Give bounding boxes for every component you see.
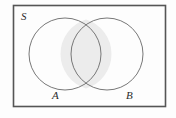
universal-set-label: S [21, 10, 27, 22]
set-b-label: B [126, 89, 133, 101]
venn-diagram-figure: S A B [0, 0, 176, 118]
venn-diagram-canvas: S A B [0, 0, 176, 118]
set-a-label: A [51, 89, 59, 101]
